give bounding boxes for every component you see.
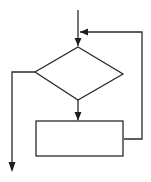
exit-connector	[12, 72, 35, 170]
entry-arrowhead	[75, 38, 82, 46]
process-box	[36, 121, 123, 156]
decision-to-process-arrowhead	[75, 112, 82, 121]
exit-arrowhead	[9, 162, 16, 172]
decision-diamond	[35, 47, 123, 100]
flowchart-diagram	[0, 0, 151, 182]
loop-back-arrowhead	[80, 29, 88, 36]
